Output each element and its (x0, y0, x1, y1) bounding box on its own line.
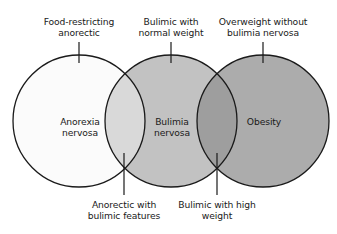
callout-overweight-without-bulimia: Overweight without bulimia nervosa (208, 16, 318, 38)
label-obesity: Obesity (229, 116, 299, 127)
circle-label-line: nervosa (137, 127, 207, 138)
callout-line: anorectic (29, 27, 129, 38)
label-bulimia-nervosa: Bulimia nervosa (137, 116, 207, 138)
circle-label-line: Bulimia (137, 116, 207, 127)
label-anorexia-nervosa: Anorexia nervosa (45, 116, 115, 138)
circle-label-line: Anorexia (45, 116, 115, 127)
callout-line: Bulimic with (121, 16, 221, 27)
callout-line: Anorectic with (74, 199, 174, 210)
callout-anorectic-with-bulimic-features: Anorectic with bulimic features (74, 199, 174, 221)
callout-bulimic-normal-weight: Bulimic with normal weight (121, 16, 221, 38)
callout-line: normal weight (121, 27, 221, 38)
callout-line: Food-restricting (29, 16, 129, 27)
callout-line: bulimia nervosa (208, 27, 318, 38)
callout-bulimic-with-high-weight: Bulimic with high weight (167, 199, 267, 221)
callout-food-restricting-anorectic: Food-restricting anorectic (29, 16, 129, 38)
callout-line: weight (167, 210, 267, 221)
callout-line: Overweight without (208, 16, 318, 27)
callout-line: Bulimic with high (167, 199, 267, 210)
circle-label-line: nervosa (45, 127, 115, 138)
circle-label-line: Obesity (229, 116, 299, 127)
callout-line: bulimic features (74, 210, 174, 221)
